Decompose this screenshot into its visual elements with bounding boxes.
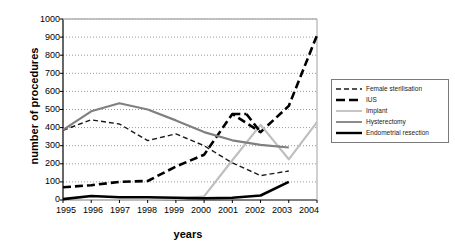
legend-swatch-solid-light-icon [336, 106, 362, 116]
legend-item-female-sterilisation: Female sterilisation [334, 84, 446, 94]
legend-swatch-long-dashed-icon [336, 95, 362, 105]
grid-lines [63, 19, 317, 182]
legend-label: IUS [366, 96, 377, 104]
legend-swatch-solid-gray-icon [336, 117, 362, 127]
legend-item-endometrial-resection: Endometrial resection [334, 128, 446, 138]
series-line [63, 35, 317, 187]
series-line [63, 122, 317, 200]
legend-item-ius: IUS [334, 95, 446, 105]
legend-item-implant: Implant [334, 106, 446, 116]
data-series-layer [63, 35, 317, 200]
legend-item-hysterectomy: Hysterectomy [334, 117, 446, 127]
legend-label: Endometrial resection [366, 129, 429, 137]
axis-ticks [60, 19, 317, 203]
legend-swatch-solid-black-icon [336, 128, 362, 138]
legend-label: Implant [366, 107, 387, 115]
legend-label: Female sterilisation [366, 85, 422, 93]
chart-figure: number of procedures years 0 100 200 300… [0, 0, 455, 249]
series-line [246, 114, 260, 132]
series-line [63, 182, 289, 199]
legend-swatch-dashed-icon [336, 84, 362, 94]
legend-label: Hysterectomy [366, 118, 406, 126]
chart-legend: Female sterilisation IUS Implant Hystere… [331, 79, 449, 143]
